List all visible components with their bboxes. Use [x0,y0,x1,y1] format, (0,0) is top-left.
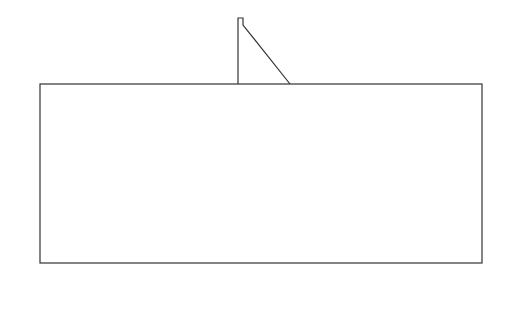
foundation-boundary [40,18,482,263]
foundation-mesh-diagram [0,0,526,310]
dam-body [238,18,290,84]
foundation-rectangle [40,84,482,263]
